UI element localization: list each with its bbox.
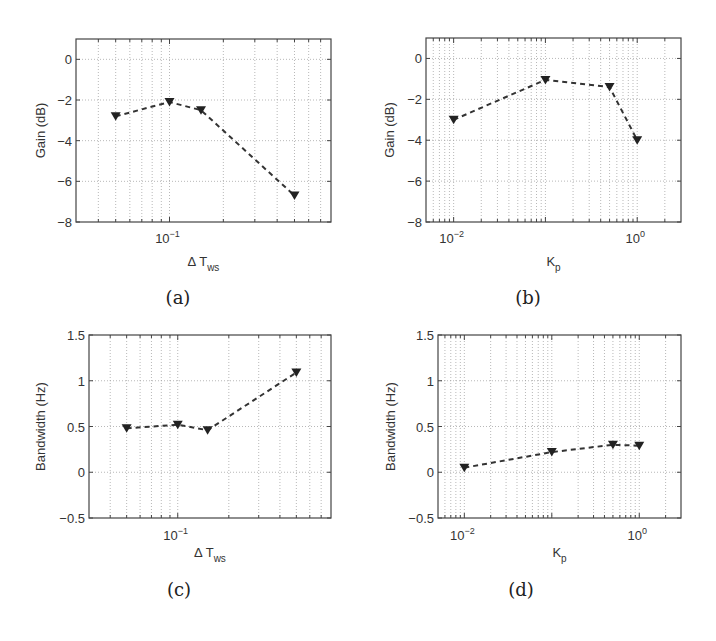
x-axis-label-sub: p — [561, 553, 567, 564]
y-axis-label: Gain (dB) — [382, 102, 397, 158]
x-axis-label: Δ Tws — [188, 254, 220, 273]
data-point-marker — [165, 98, 175, 107]
panel-c: 1.510.50−0.510−1Δ TwsBandwidth (Hz)(c) — [33, 328, 331, 600]
y-axis-label: Bandwidth (Hz) — [383, 382, 398, 471]
x-tick-label: 10−2 — [450, 526, 475, 543]
x-tick-exponent: −1 — [178, 526, 188, 536]
data-point-marker — [449, 116, 459, 125]
x-axis-label-sub: ws — [206, 262, 219, 273]
y-tick-label: −6 — [57, 174, 72, 189]
x-axis-label-sub: p — [555, 262, 561, 273]
subfigure-caption: (c) — [167, 579, 191, 600]
x-axis-label-main: Δ T — [188, 254, 208, 269]
x-tick-exponent: −2 — [454, 229, 464, 239]
x-tick-exponent: 0 — [640, 229, 645, 239]
x-tick-base: 10 — [439, 231, 453, 246]
x-tick-label: 10−2 — [439, 229, 464, 246]
y-axis-label: Gain (dB) — [33, 103, 48, 159]
y-tick-label: 0.5 — [416, 420, 434, 435]
panel-b: 0−2−4−6−810−2100KpGain (dB)(b) — [382, 38, 681, 308]
x-tick-exponent: 0 — [642, 526, 647, 536]
data-point-marker — [111, 112, 121, 121]
x-tick-label: 10−1 — [163, 526, 188, 543]
x-tick-base: 10 — [163, 528, 177, 543]
x-tick-label: 10−1 — [155, 229, 180, 246]
subfigure-caption: (b) — [515, 287, 541, 308]
y-tick-label: 1 — [427, 374, 434, 389]
y-tick-label: −8 — [407, 215, 422, 230]
x-axis-label: Δ Tws — [194, 545, 226, 564]
figure: 0−2−4−6−810−1Δ TwsGain (dB)(a) 0−2−4−6−8… — [0, 0, 716, 641]
x-tick-base: 10 — [625, 231, 639, 246]
data-point-marker — [605, 83, 615, 92]
y-axis-label: Bandwidth (Hz) — [33, 382, 48, 471]
x-axis-label: Kp — [546, 254, 561, 273]
subfigure-caption: (d) — [508, 579, 534, 600]
y-tick-label: 1.5 — [67, 328, 85, 343]
x-tick-base: 10 — [628, 528, 642, 543]
data-point-marker — [289, 192, 299, 201]
y-tick-label: 1 — [78, 374, 85, 389]
plot-frame — [426, 38, 681, 222]
y-tick-label: −4 — [57, 134, 72, 149]
data-point-marker — [203, 426, 213, 435]
subfigure-caption: (a) — [166, 287, 191, 308]
x-tick-exponent: −1 — [170, 229, 180, 239]
x-tick-label: 100 — [625, 229, 644, 246]
y-tick-label: 0 — [78, 465, 85, 480]
y-tick-label: −2 — [57, 93, 72, 108]
series-line — [127, 373, 297, 431]
y-tick-label: −0.5 — [408, 511, 434, 526]
y-tick-label: 0 — [415, 51, 422, 66]
x-axis-label-sub: ws — [213, 553, 226, 564]
panel-d: 1.510.50−0.510−2100KpBandwidth (Hz)(d) — [383, 328, 681, 600]
y-tick-label: 0.5 — [67, 420, 85, 435]
y-tick-label: −8 — [57, 215, 72, 230]
x-axis-label-main: K — [546, 254, 555, 269]
x-axis-label-main: Δ T — [194, 545, 214, 560]
y-tick-label: 0 — [427, 465, 434, 480]
y-tick-label: −0.5 — [59, 511, 85, 526]
x-tick-label: 100 — [628, 526, 647, 543]
x-axis-label-main: K — [552, 545, 561, 560]
x-tick-base: 10 — [450, 528, 464, 543]
y-tick-label: 0 — [65, 52, 72, 67]
y-tick-label: −6 — [407, 174, 422, 189]
y-tick-label: −4 — [407, 133, 422, 148]
x-tick-exponent: −2 — [464, 526, 474, 536]
panel-a: 0−2−4−6−810−1Δ TwsGain (dB)(a) — [33, 39, 331, 308]
x-axis-label: Kp — [552, 545, 567, 564]
y-tick-label: −2 — [407, 92, 422, 107]
y-tick-label: 1.5 — [416, 328, 434, 343]
x-tick-base: 10 — [155, 231, 169, 246]
